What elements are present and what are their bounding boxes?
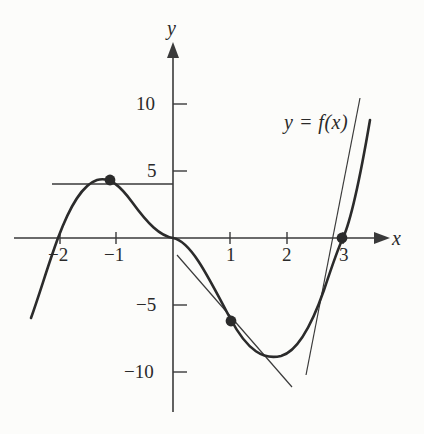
marked-point-x-1[interactable] [226,316,237,327]
x-tick-label--1: −1 [104,245,124,264]
curve-equation-label: y = f(x) [284,112,348,132]
marked-point-x-3[interactable] [337,233,348,244]
y-tick-label-10: 10 [136,94,155,113]
x-tick-label--2: −2 [48,245,68,264]
x-axis-label: x [392,228,401,248]
x-tick-label-3: 3 [339,245,349,264]
function-graph-figure: y x 10 5 −5 −10 −2 −1 1 2 3 y = f(x) [0,0,424,434]
y-tick-label--5: −5 [136,295,156,314]
x-axis-arrowhead [374,232,390,244]
marked-point-local-max[interactable] [105,175,116,186]
y-axis-label: y [167,18,176,38]
x-tick-label-2: 2 [282,245,292,264]
tangent-line-at-x-3 [306,98,360,375]
y-tick-label-5: 5 [147,161,157,180]
y-axis [167,42,187,412]
x-tick-label-1: 1 [226,245,236,264]
y-tick-label--10: −10 [124,362,154,381]
plot-canvas [0,0,424,434]
y-axis-arrowhead [167,42,179,58]
